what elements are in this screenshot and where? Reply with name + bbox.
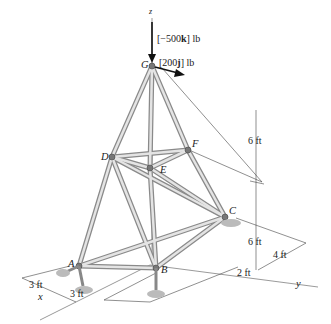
z-axis-label: z [149, 8, 152, 16]
node-label-a: A [68, 259, 74, 270]
node-label-d: D [101, 152, 109, 163]
x-dim-right [104, 300, 150, 302]
node-label-c: C [229, 206, 236, 217]
node-label-f: F [192, 139, 198, 150]
dim-offset-y: 2 ft [237, 268, 251, 278]
dim-upper-height: 6 ft [248, 136, 262, 146]
ext-line-c [236, 218, 306, 243]
x-axis-label: x [38, 292, 43, 303]
y-axis-label: y [296, 279, 301, 290]
dim-x-left: 3 ft [29, 280, 43, 290]
node-label-e: E [160, 165, 166, 176]
horizontal-load-label: [200j] lb [159, 58, 194, 68]
vertical-load-label: [−500k] lb [157, 34, 200, 44]
node-label-g: G [141, 60, 149, 71]
node-label-b: B [161, 265, 167, 276]
dim-x-right: 3 ft [70, 289, 84, 299]
ext-line-mid [189, 150, 262, 182]
dim-lower-height: 6 ft [248, 237, 262, 247]
truss-diagram: G D F E C A B [−500k] lb [200j] lb z y x… [0, 0, 331, 324]
dim-depth-y: 4 ft [273, 250, 287, 260]
